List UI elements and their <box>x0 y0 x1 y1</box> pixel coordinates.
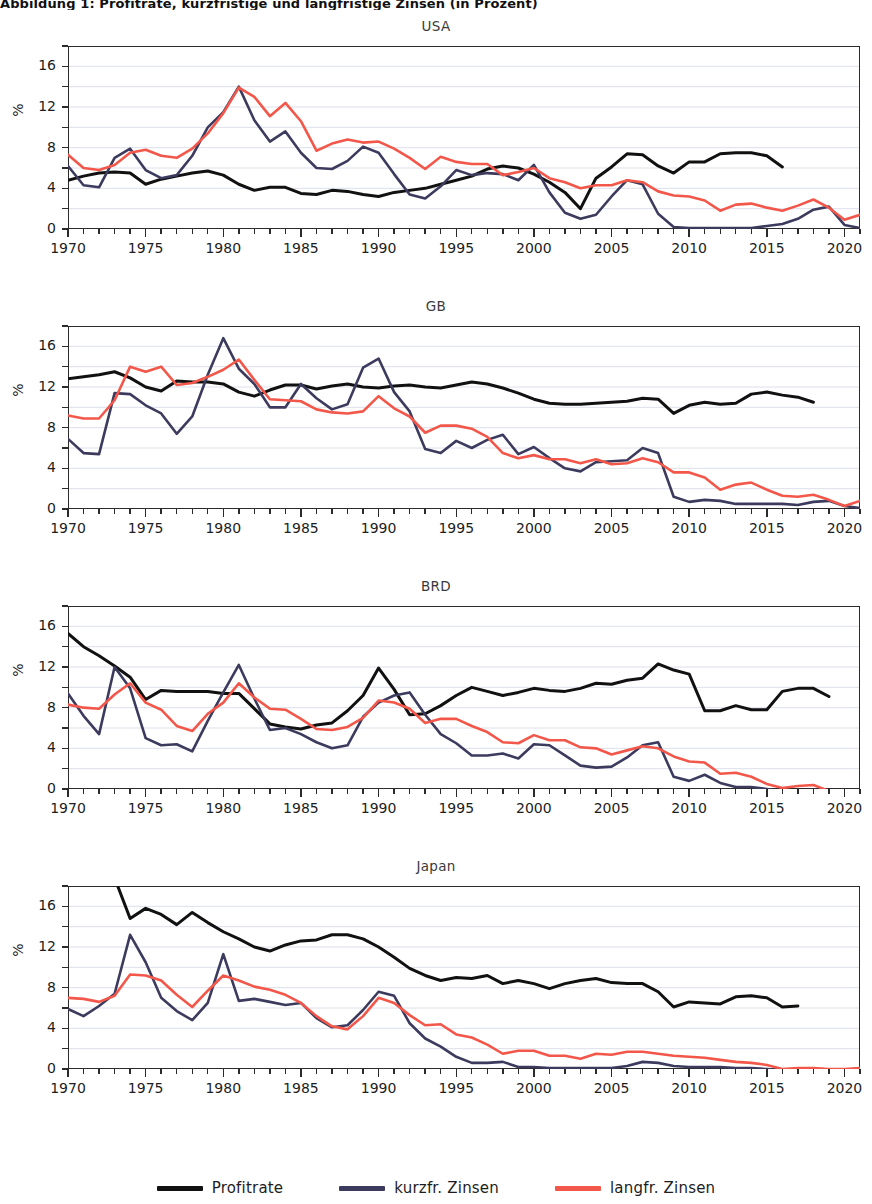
x-tick-mark <box>409 509 410 514</box>
x-tick-mark <box>424 1069 425 1074</box>
panel-title-usa: USA <box>0 18 872 34</box>
plot-area-gb <box>68 326 860 509</box>
x-tick-label: 2015 <box>749 520 785 536</box>
x-tick-mark <box>735 509 736 514</box>
x-tick-mark <box>797 789 798 794</box>
x-tick-label: 2005 <box>594 520 630 536</box>
x-tick-mark <box>657 1069 658 1074</box>
x-tick-label: 1975 <box>128 800 164 816</box>
x-tick-mark <box>285 229 286 234</box>
x-tick-mark <box>688 789 689 797</box>
plot-area-brd <box>68 606 860 789</box>
x-tick-mark <box>751 509 752 514</box>
y-tick-label: 12 <box>22 99 56 113</box>
x-tick-mark <box>456 1069 457 1077</box>
x-tick-mark <box>580 789 581 794</box>
y-tick-mark <box>62 605 68 607</box>
y-tick-label: 16 <box>22 58 56 72</box>
x-tick-mark <box>129 1069 130 1074</box>
y-tick-mark <box>62 1048 68 1050</box>
x-tick-mark <box>688 509 689 517</box>
x-tick-label: 2020 <box>827 520 863 536</box>
y-tick-mark <box>62 727 68 729</box>
x-tick-mark <box>254 789 255 794</box>
x-tick-mark <box>611 509 612 517</box>
legend-label-kurzfr-zinsen: kurzfr. Zinsen <box>394 1179 499 1197</box>
y-tick-mark <box>62 447 68 449</box>
x-tick-label: 1990 <box>361 800 397 816</box>
x-tick-mark <box>331 229 332 234</box>
x-tick-label: 1985 <box>283 800 319 816</box>
y-tick-mark <box>62 106 68 108</box>
x-tick-mark <box>83 509 84 514</box>
x-tick-mark <box>83 229 84 234</box>
x-tick-mark <box>254 509 255 514</box>
x-tick-mark <box>859 1069 860 1074</box>
x-tick-mark <box>518 789 519 794</box>
x-tick-mark <box>611 1069 612 1077</box>
x-tick-mark <box>828 229 829 234</box>
x-tick-label: 1995 <box>438 520 474 536</box>
x-tick-mark <box>160 1069 161 1074</box>
panel-title-japan: Japan <box>0 858 872 874</box>
x-tick-label: 2020 <box>827 1080 863 1096</box>
x-tick-mark <box>316 509 317 514</box>
legend-label-langfr-zinsen: langfr. Zinsen <box>610 1179 715 1197</box>
x-tick-mark <box>751 1069 752 1074</box>
x-tick-label: 1970 <box>50 800 86 816</box>
x-tick-label: 1990 <box>361 520 397 536</box>
x-tick-mark <box>549 1069 550 1074</box>
x-tick-mark <box>626 789 627 794</box>
panel-title-brd: BRD <box>0 578 872 594</box>
y-tick-mark <box>62 926 68 928</box>
y-tick-mark <box>62 147 68 149</box>
x-tick-mark <box>300 229 301 237</box>
x-tick-mark <box>549 789 550 794</box>
x-tick-mark <box>347 789 348 794</box>
x-tick-label: 2020 <box>827 240 863 256</box>
y-tick-mark <box>62 967 68 969</box>
x-tick-mark <box>564 509 565 514</box>
x-tick-mark <box>129 509 130 514</box>
x-tick-mark <box>331 789 332 794</box>
x-tick-mark <box>487 509 488 514</box>
x-tick-mark <box>192 1069 193 1074</box>
x-tick-mark <box>502 789 503 794</box>
x-tick-mark <box>67 509 68 517</box>
x-tick-mark <box>673 1069 674 1074</box>
x-tick-label: 1980 <box>205 520 241 536</box>
x-tick-mark <box>859 229 860 234</box>
x-tick-mark <box>518 509 519 514</box>
x-tick-mark <box>688 1069 689 1077</box>
y-tick-mark <box>62 885 68 887</box>
figure-profitrate-zinsen: Abbildung 1: Profitrate, kurzfristige un… <box>0 0 872 1204</box>
x-tick-mark <box>735 1069 736 1074</box>
x-tick-mark <box>129 229 130 234</box>
x-tick-label: 1990 <box>361 1080 397 1096</box>
x-tick-mark <box>207 229 208 234</box>
x-tick-mark <box>238 1069 239 1074</box>
y-tick-label: 4 <box>22 180 56 194</box>
x-tick-mark <box>580 229 581 234</box>
x-tick-mark <box>595 1069 596 1074</box>
x-tick-mark <box>285 1069 286 1074</box>
x-tick-mark <box>487 1069 488 1074</box>
x-tick-mark <box>595 229 596 234</box>
x-tick-label: 1985 <box>283 520 319 536</box>
x-tick-mark <box>269 789 270 794</box>
x-tick-mark <box>844 509 845 517</box>
x-tick-label: 2020 <box>827 800 863 816</box>
x-tick-mark <box>409 1069 410 1074</box>
x-tick-mark <box>238 789 239 794</box>
x-tick-mark <box>704 1069 705 1074</box>
x-tick-mark <box>828 1069 829 1074</box>
x-tick-mark <box>580 1069 581 1074</box>
legend-swatch-kurzfr-zinsen <box>339 1186 385 1191</box>
x-tick-mark <box>766 1069 767 1077</box>
x-tick-mark <box>254 229 255 234</box>
x-tick-mark <box>720 789 721 794</box>
legend-swatch-langfr-zinsen <box>555 1186 601 1191</box>
x-tick-mark <box>98 789 99 794</box>
x-tick-mark <box>642 229 643 234</box>
y-tick-label: 8 <box>22 140 56 154</box>
